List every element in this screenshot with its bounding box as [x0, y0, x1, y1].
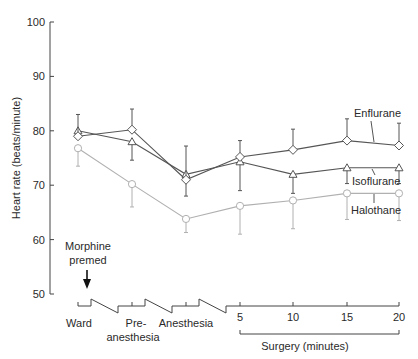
legend-isoflurane: Isoflurane	[352, 175, 400, 187]
x-axis: Ward Pre- anesthesia Anesthesia 5 10 15 …	[66, 299, 405, 352]
diamond-marker-icon	[236, 152, 245, 161]
circle-marker-icon	[128, 181, 135, 188]
x-label-ward: Ward	[66, 317, 92, 329]
x-label-pre-2: anesthesia	[106, 331, 160, 343]
legend: Enflurane Isoflurane Halothane	[351, 107, 401, 216]
diamond-marker-icon	[395, 141, 404, 150]
x-label-anesthesia: Anesthesia	[159, 317, 214, 329]
x-label-20: 20	[393, 311, 405, 323]
x-label-10: 10	[287, 311, 299, 323]
x-label-pre-1: Pre-	[126, 317, 147, 329]
y-tick-label: 50	[33, 288, 45, 300]
morphine-premed-annotation: Morphine premed	[65, 240, 111, 289]
heart-rate-chart: 5060708090100 Heart rate (beats/minute) …	[0, 0, 418, 359]
legend-halothane: Halothane	[351, 204, 401, 216]
y-tick-label: 100	[27, 16, 45, 28]
circle-marker-icon	[343, 190, 350, 197]
svg-text:premed: premed	[69, 254, 106, 266]
y-tick-label: 60	[33, 234, 45, 246]
y-tick-label: 70	[33, 179, 45, 191]
diamond-marker-icon	[289, 145, 298, 154]
circle-marker-icon	[182, 215, 189, 222]
x-label-15: 15	[341, 311, 353, 323]
legend-enflurane: Enflurane	[354, 107, 401, 119]
x-axis-label: Surgery (minutes)	[261, 340, 348, 352]
circle-marker-icon	[236, 202, 243, 209]
y-axis-label: Heart rate (beats/minute)	[10, 97, 22, 219]
y-tick-label: 90	[33, 70, 45, 82]
diamond-marker-icon	[343, 136, 352, 145]
arrow-down-icon	[83, 279, 91, 289]
circle-marker-icon	[74, 145, 81, 152]
x-label-5: 5	[237, 311, 243, 323]
circle-marker-icon	[395, 190, 402, 197]
y-tick-label: 80	[33, 125, 45, 137]
svg-text:Morphine: Morphine	[65, 240, 111, 252]
y-axis: 5060708090100 Heart rate (beats/minute)	[10, 16, 54, 300]
circle-marker-icon	[289, 197, 296, 204]
